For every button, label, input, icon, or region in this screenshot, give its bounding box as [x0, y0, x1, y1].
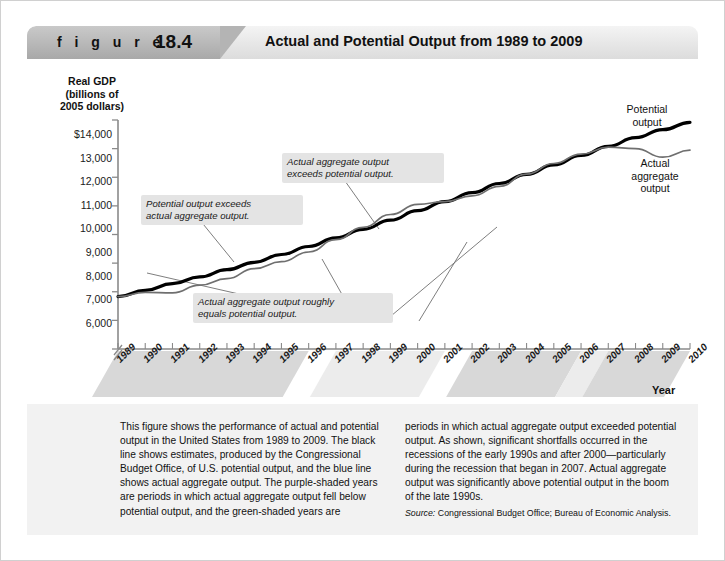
- series-label-actual-aggregate-output: Actual aggregate output: [613, 157, 697, 195]
- figure-number: 18.4: [155, 31, 192, 53]
- caption-source: Source: Congressional Budget Office; Bur…: [405, 508, 678, 519]
- caption-left-column: This figure shows the performance of act…: [120, 420, 393, 519]
- y-axis-tick-marks: [112, 120, 118, 349]
- caption-right-text: periods in which actual aggregate output…: [405, 421, 676, 502]
- series-label-actual-line2: aggregate: [613, 170, 697, 183]
- caption-panel: This figure shows the performance of act…: [27, 404, 698, 535]
- chart-panel: Real GDP (billions of 2005 dollars) $14,…: [27, 59, 698, 404]
- series-label-potential-line2: output: [605, 116, 689, 129]
- figure-page: f i g u r e 18.4 Actual and Potential Ou…: [0, 0, 725, 561]
- x-axis-title: Year: [652, 384, 675, 396]
- caption-source-label: Source:: [405, 508, 435, 518]
- caption-source-text: Congressional Budget Office; Bureau of E…: [438, 508, 671, 518]
- callout-roughly-equal: Actual aggregate output roughly equals p…: [193, 293, 393, 323]
- figure-title: Actual and Potential Output from 1989 to…: [265, 33, 582, 49]
- series-label-actual-line3: output: [613, 182, 697, 195]
- figure-banner: f i g u r e 18.4 Actual and Potential Ou…: [27, 26, 698, 59]
- callout-actual-exceeds-potential: Actual aggregate output exceeds potentia…: [282, 153, 444, 183]
- callout-potential-exceeds-actual: Potential output exceeds actual aggregat…: [141, 195, 303, 225]
- series-label-potential-output: Potential output: [605, 103, 689, 128]
- series-label-actual-line1: Actual: [613, 157, 697, 170]
- caption-right-column: periods in which actual aggregate output…: [405, 420, 678, 519]
- series-label-potential-line1: Potential: [605, 103, 689, 116]
- figure-word: f i g u r e: [57, 34, 165, 50]
